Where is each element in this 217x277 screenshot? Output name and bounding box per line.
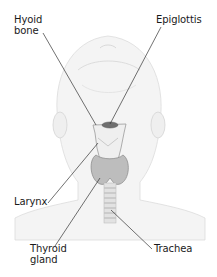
- label-epiglottis: Epiglottis: [156, 14, 202, 25]
- anatomy-diagram: Hyoid bone Epiglottis Larynx Thyroid gla…: [0, 0, 217, 277]
- label-larynx: Larynx: [14, 196, 47, 207]
- label-thyroid-gland: Thyroid gland: [30, 243, 67, 265]
- neck-illustration: [0, 0, 217, 277]
- label-hyoid-bone: Hyoid bone: [14, 14, 42, 36]
- trachea-shape: [104, 183, 116, 223]
- label-trachea: Trachea: [154, 243, 192, 254]
